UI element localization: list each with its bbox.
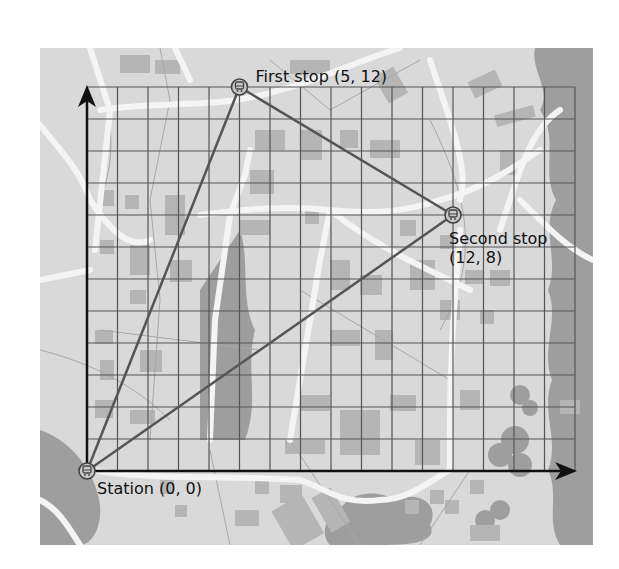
first-stop-label: First stop (5, 12) [256, 67, 388, 86]
first-stop-label-line: First stop (5, 12) [256, 67, 388, 86]
train-icon [79, 463, 95, 479]
second-stop-label-line: Second stop [449, 229, 548, 248]
station-label-line: Station (0, 0) [97, 479, 202, 498]
city-map-background [40, 48, 593, 550]
station-label: Station (0, 0) [97, 479, 202, 498]
train-icon [232, 79, 248, 95]
train-icon [445, 207, 461, 223]
coordinate-map-diagram: Station (0, 0)First stop (5, 12)Second s… [0, 0, 619, 569]
second-stop-label-line: (12, 8) [449, 248, 502, 267]
